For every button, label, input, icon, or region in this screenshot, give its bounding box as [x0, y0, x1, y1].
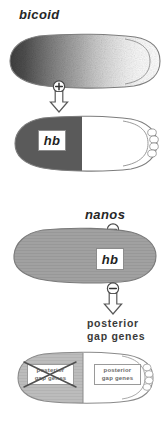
down-arrow-icon — [104, 294, 121, 315]
protein-box-hb-uniform: hb — [96, 248, 124, 270]
embryo-hb-uniform — [11, 227, 159, 285]
protein-box-hb-anterior: hb — [38, 130, 66, 151]
domain-box-expressed-label: posterior gap genes — [102, 367, 133, 382]
label-posterior-gap-genes: posterior gap genes — [87, 317, 145, 342]
gene-label-bicoid: bicoid — [19, 8, 60, 21]
connector-hb-represses-gap — [100, 282, 126, 316]
down-arrow-icon — [50, 92, 67, 113]
protein-box-hb-uniform-label: hb — [102, 253, 118, 266]
domain-box-repressed-label: posterior gap genes — [35, 367, 66, 382]
connector-bicoid-activates-hb — [46, 80, 72, 114]
embryo-bicoid-gradient — [9, 34, 161, 88]
plus-circle-icon — [53, 81, 64, 92]
domain-box-expressed: posterior gap genes — [94, 364, 141, 385]
label-posterior-gap-genes-line2: gap genes — [87, 330, 145, 343]
embryo-hb-anterior — [13, 116, 161, 171]
domain-box-repressed: posterior gap genes — [27, 364, 74, 385]
protein-box-hb-anterior-label: hb — [44, 134, 60, 147]
minus-circle-icon — [107, 283, 118, 294]
gene-label-nanos: nanos — [85, 208, 125, 221]
developmental-gene-regulation-figure: bicoid — [0, 0, 167, 427]
label-posterior-gap-genes-line1: posterior — [87, 317, 145, 330]
